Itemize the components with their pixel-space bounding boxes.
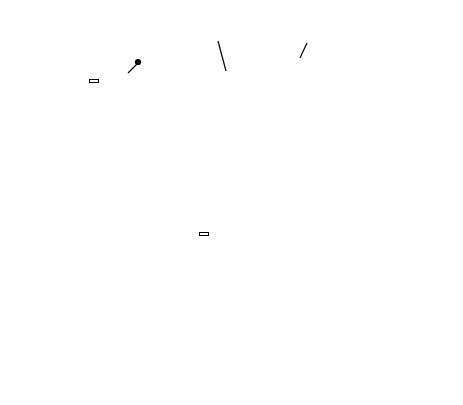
crop-failure-label: [89, 79, 99, 83]
crop-failure-leader-dot: [135, 59, 141, 65]
annotation-leaders: [128, 41, 307, 74]
area-chart-plot: [0, 0, 463, 405]
crop-failure-leader-line: [128, 64, 137, 73]
summer-fallow-leader-line: [218, 41, 226, 71]
chart-container: [0, 0, 463, 405]
total-leader-line: [300, 43, 307, 58]
cropland-harvested-label: [199, 232, 209, 236]
